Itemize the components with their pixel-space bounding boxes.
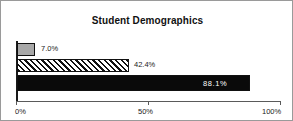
x-axis-tick-0 <box>16 101 17 105</box>
bar-row: 7.0% <box>17 43 281 56</box>
chart-container: Student Demographics 0% 50% 100% 7.0% 42… <box>0 0 293 121</box>
x-axis-tick-label-100: 100% <box>262 107 281 116</box>
x-axis-tick-50 <box>148 101 149 105</box>
bar-hatched[interactable] <box>17 59 129 72</box>
bar-value-label: 88.1% <box>203 79 227 88</box>
x-axis-tick-label-0: 0% <box>15 107 26 116</box>
bar-row: 42.4% <box>17 59 281 72</box>
bar-value-label: 7.0% <box>41 44 58 53</box>
plot-area: 0% 50% 100% 7.0% 42.4% 88.1% <box>17 41 281 101</box>
bar-row: 88.1% <box>17 75 281 91</box>
bar-value-label: 42.4% <box>134 60 155 69</box>
bar-gray[interactable] <box>17 43 35 56</box>
chart-title: Student Demographics <box>1 15 293 26</box>
x-axis-tick-100 <box>280 101 281 105</box>
x-axis-tick-label-50: 50% <box>138 107 153 116</box>
